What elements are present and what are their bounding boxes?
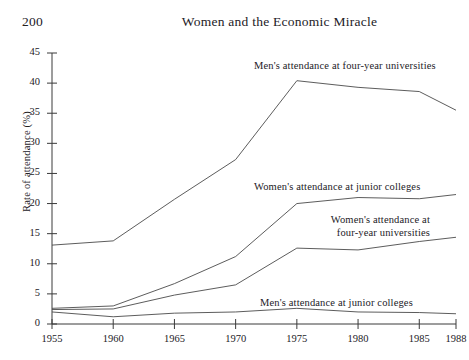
book-page: 200 Women and the Economic Miracle Rate … (0, 0, 469, 360)
chart-series-group (52, 81, 456, 317)
x-tick-label: 1988 (436, 333, 469, 344)
y-tick-label: 20 (14, 197, 40, 208)
y-tick-label: 30 (14, 136, 40, 147)
y-tick-label: 15 (14, 227, 40, 238)
x-tick-label: 1975 (277, 333, 317, 344)
x-tick-label: 1960 (93, 333, 133, 344)
x-tick-label: 1980 (338, 333, 378, 344)
running-head: 200 Women and the Economic Miracle (0, 14, 469, 34)
y-tick-label: 35 (14, 106, 40, 117)
series-annotation-women-junior: Women's attendance at junior colleges (254, 180, 420, 193)
y-tick-label: 40 (14, 76, 40, 87)
y-tick-label: 25 (14, 166, 40, 177)
line-chart: Rate of attendance (%) 05101520253035404… (0, 36, 469, 360)
x-tick-label: 1970 (216, 333, 256, 344)
chart-canvas (0, 36, 469, 360)
x-tick-label: 1985 (399, 333, 439, 344)
x-tick-label: 1955 (32, 333, 72, 344)
series-annotation-women-four-year-line1: Women's attendance at (258, 213, 430, 226)
series-line-3 (52, 308, 456, 316)
y-tick-label: 0 (14, 317, 40, 328)
x-tick-label: 1965 (154, 333, 194, 344)
series-annotation-men-four-year: Men's attendance at four-year universiti… (254, 59, 436, 72)
y-tick-label: 5 (14, 287, 40, 298)
series-annotation-women-four-year-line2: four-year universities (258, 226, 430, 239)
chapter-title: Women and the Economic Miracle (0, 14, 469, 30)
y-tick-label: 45 (14, 46, 40, 57)
series-annotation-women-four-year: Women's attendance at four-year universi… (258, 213, 430, 239)
series-line-1 (52, 195, 456, 309)
series-annotation-men-junior: Men's attendance at junior colleges (260, 296, 413, 309)
y-tick-label: 10 (14, 257, 40, 268)
